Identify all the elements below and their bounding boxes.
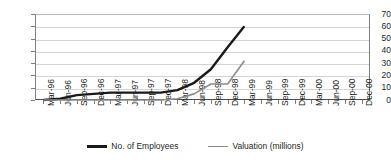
x-tick-label: Dec-00 xyxy=(365,79,374,106)
x-tick-label: Jun-97 xyxy=(131,80,140,106)
x-tick-mark xyxy=(311,100,312,104)
x-tick-label: Sep-96 xyxy=(80,79,89,106)
x-tick-mark xyxy=(194,100,195,104)
x-tick-label: Jun-98 xyxy=(198,80,207,106)
legend-line-swatch-valuation xyxy=(208,146,228,148)
gridline xyxy=(36,40,369,41)
legend-label-employees: No. of Employees xyxy=(111,142,178,151)
legend-item-valuation: Valuation (millions) xyxy=(208,142,303,151)
gridline xyxy=(36,64,369,65)
x-tick-mark xyxy=(177,100,178,104)
x-tick-mark xyxy=(110,100,111,104)
x-tick-mark xyxy=(345,100,346,104)
x-tick-label: Sep-99 xyxy=(281,79,290,106)
x-tick-mark xyxy=(60,100,61,104)
x-tick-mark xyxy=(244,100,245,104)
x-tick-mark xyxy=(278,100,279,104)
x-tick-label: Dec-98 xyxy=(231,79,240,106)
x-tick-label: Dec-99 xyxy=(298,79,307,106)
x-tick-label: Mar-97 xyxy=(114,79,123,106)
x-tick-mark xyxy=(77,100,78,104)
x-tick-label: Mar-96 xyxy=(47,79,56,106)
x-tick-mark xyxy=(295,100,296,104)
x-tick-mark xyxy=(362,100,363,104)
x-tick-mark xyxy=(43,100,44,104)
x-tick-mark xyxy=(144,100,145,104)
x-tick-label: Sep-00 xyxy=(348,79,357,106)
gridline xyxy=(36,27,369,28)
line-chart: 010203040506070 Mar-96Jun-96Sep-96Dec-96… xyxy=(0,0,391,163)
x-tick-label: Sep-98 xyxy=(214,79,223,106)
x-tick-label: Mar-00 xyxy=(315,79,324,106)
x-tick-label: Sep-97 xyxy=(147,79,156,106)
x-tick-mark xyxy=(261,100,262,104)
legend-label-valuation: Valuation (millions) xyxy=(232,142,303,151)
x-tick-mark xyxy=(94,100,95,104)
x-tick-mark xyxy=(161,100,162,104)
legend-line-swatch-employees xyxy=(87,145,107,147)
gridline xyxy=(36,52,369,53)
x-tick-label: Mar-98 xyxy=(181,79,190,106)
x-tick-label: Dec-96 xyxy=(97,79,106,106)
x-tick-mark xyxy=(228,100,229,104)
gridline xyxy=(36,76,369,77)
x-tick-label: Jun-00 xyxy=(332,80,341,106)
legend-item-employees: No. of Employees xyxy=(87,142,178,151)
chart-legend: No. of Employees Valuation (millions) xyxy=(0,142,391,151)
y-tick-mark xyxy=(31,100,35,101)
x-tick-mark xyxy=(211,100,212,104)
x-tick-mark xyxy=(127,100,128,104)
x-tick-label: Jun-99 xyxy=(265,80,274,106)
x-tick-mark xyxy=(328,100,329,104)
x-tick-label: Jun-96 xyxy=(64,80,73,106)
x-tick-label: Dec-97 xyxy=(164,79,173,106)
x-tick-label: Mar-99 xyxy=(248,79,257,106)
